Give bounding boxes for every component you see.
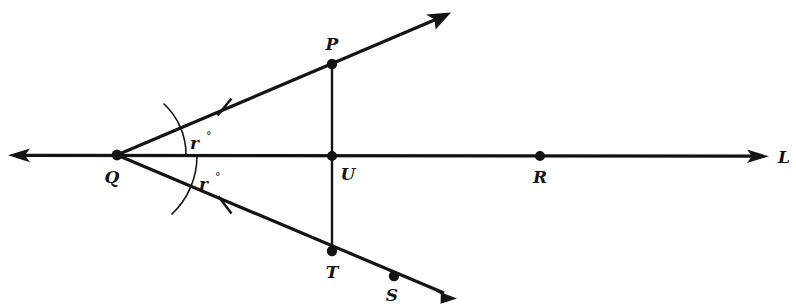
label-point-Q: Q [105, 167, 120, 187]
geometry-figure: Q P U R T S L r ° r ° [0, 0, 796, 308]
label-angle-lower-r: r [199, 174, 209, 194]
label-angle-upper-r: r [190, 133, 200, 153]
angle-lower-arc [172, 156, 198, 215]
ray-QP-shaft [117, 19, 438, 156]
label-point-P: P [325, 34, 340, 54]
label-angle-upper-degree-icon: ° [206, 130, 212, 143]
point-dot-T [327, 246, 337, 256]
point-dot-R [535, 151, 545, 161]
label-point-U: U [341, 164, 357, 184]
point-dot-S [389, 271, 399, 281]
ray-QS-arrowhead-icon [433, 289, 457, 304]
point-labels: Q P U R T S [105, 34, 547, 305]
line-labels: L [777, 147, 790, 167]
point-dot-U [327, 151, 337, 161]
point-dots [112, 59, 545, 281]
angle-labels: r ° r ° [190, 130, 221, 194]
point-dot-Q [112, 150, 123, 161]
ray-Q-through-T-S [117, 155, 457, 304]
ray-Q-through-P [117, 13, 451, 155]
point-dot-P [327, 59, 337, 69]
label-point-S: S [386, 285, 398, 305]
label-point-T: T [326, 262, 340, 282]
line-L-shaft [22, 155, 760, 156]
label-point-R: R [532, 167, 547, 187]
angle-arcs-at-Q [164, 104, 198, 215]
label-line-L: L [777, 147, 790, 167]
label-angle-lower-degree-icon: ° [215, 171, 221, 184]
geometry-canvas: Q P U R T S L r ° r ° [0, 0, 796, 308]
